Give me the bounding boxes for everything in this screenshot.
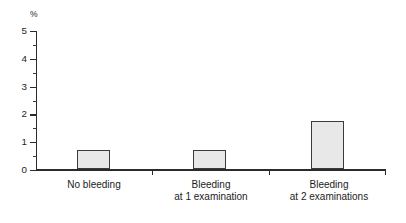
- x-category-label-bleeding-2-examinations: Bleeding at 2 examinations: [272, 179, 386, 202]
- x-tick-separator-1: [152, 171, 153, 175]
- x-category-label-line2: at 2 examinations: [272, 191, 386, 203]
- x-category-label-no-bleeding: No bleeding: [40, 179, 148, 191]
- x-tick-separator-2: [269, 171, 270, 175]
- y-tick-minor-2-5: [33, 101, 37, 102]
- figure-caption-cutoff: [6, 214, 306, 223]
- x-category-label-line1: Bleeding: [310, 179, 349, 190]
- y-tick-label-3: 3: [10, 82, 27, 92]
- y-tick-label-2: 2: [10, 109, 27, 119]
- x-category-label-line2: at 1 examination: [155, 191, 267, 203]
- y-tick-major-2: [30, 114, 37, 115]
- y-tick-label-4: 4: [10, 54, 27, 64]
- x-axis-line: [36, 169, 386, 170]
- y-tick-major-1: [30, 142, 37, 143]
- bar-bleeding-1-examination: [193, 150, 226, 169]
- y-tick-label-0: 0: [10, 165, 27, 175]
- y-tick-major-3: [30, 87, 37, 88]
- x-category-label-line1: Bleeding: [192, 179, 231, 190]
- bar-no-bleeding: [77, 150, 110, 169]
- bar-bleeding-2-examinations: [311, 121, 344, 169]
- y-tick-label-1: 1: [10, 137, 27, 147]
- y-tick-minor-0-5: [33, 156, 37, 157]
- x-category-label-line1: No bleeding: [67, 179, 120, 190]
- y-tick-major-4: [30, 59, 37, 60]
- y-axis-unit-label: %: [30, 9, 38, 19]
- x-category-label-bleeding-1-examination: Bleeding at 1 examination: [155, 179, 267, 202]
- bar-chart-figure: % 5 4 3 2 1 0 No bleeding Bleeding at 1 …: [0, 0, 406, 223]
- y-tick-minor-1-5: [33, 128, 37, 129]
- y-tick-minor-3-5: [33, 73, 37, 74]
- y-tick-minor-4-5: [33, 45, 37, 46]
- y-tick-major-5: [30, 31, 37, 32]
- y-tick-label-5: 5: [10, 26, 27, 36]
- x-tick-end: [385, 171, 386, 175]
